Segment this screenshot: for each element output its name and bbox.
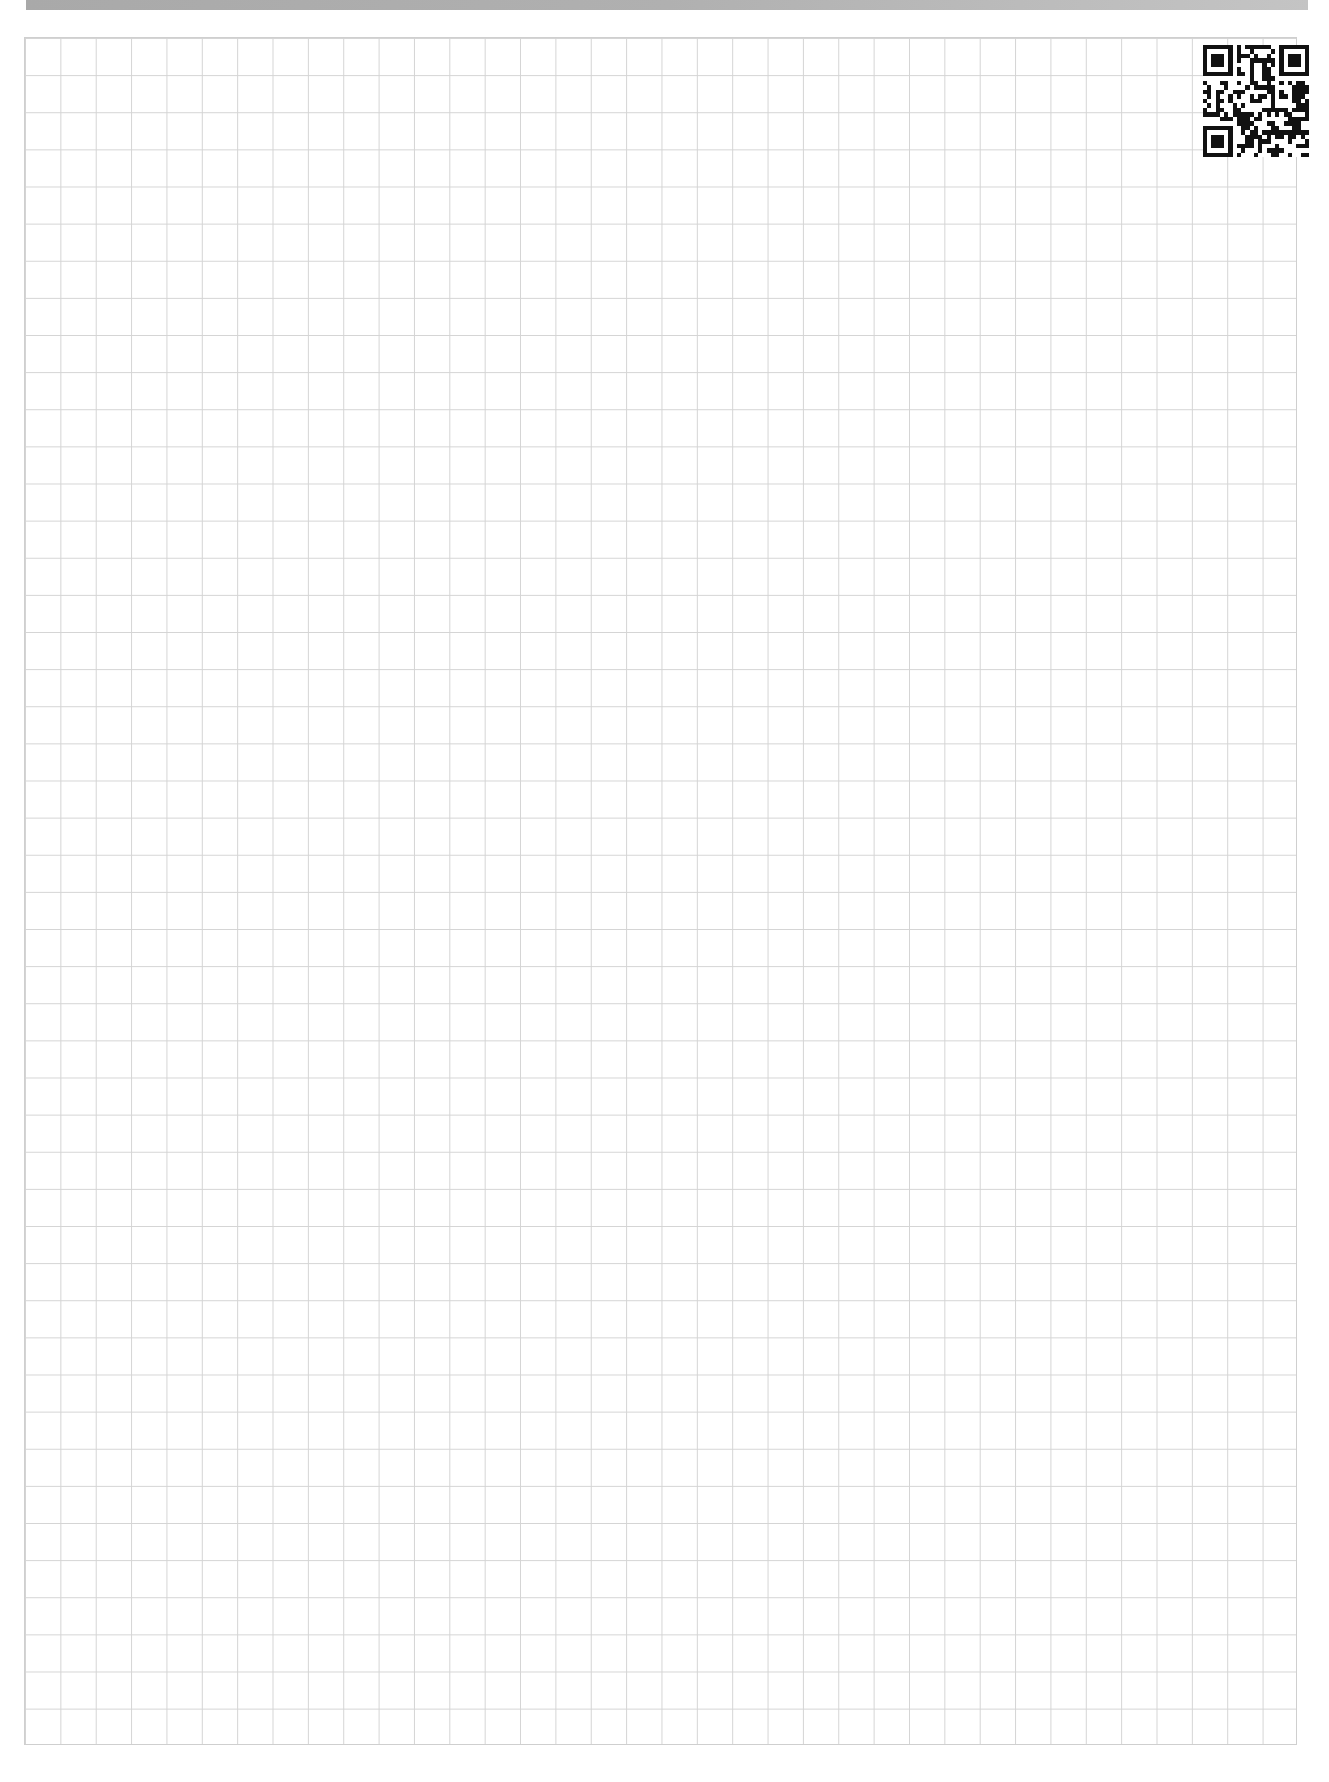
graph-paper-grid: [24, 37, 1297, 1745]
qr-code: [1203, 45, 1309, 157]
page-title-strip: [26, 0, 1308, 10]
